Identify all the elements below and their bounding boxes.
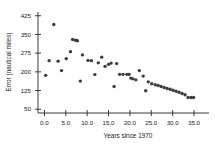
chart-container: 42535027520012550 0.05.010.015.020.025.0… <box>0 0 215 146</box>
data-point <box>186 96 189 99</box>
x-tick-label: 35.0 <box>188 119 201 126</box>
data-point <box>76 39 79 42</box>
data-point <box>121 73 124 76</box>
scatter-plot: 42535027520012550 0.05.010.015.020.025.0… <box>0 0 215 146</box>
data-point-group <box>44 23 195 99</box>
data-point <box>156 84 159 87</box>
data-point <box>115 62 118 65</box>
y-axis-title: Error (nautical miles) <box>5 33 13 92</box>
data-point <box>177 91 180 94</box>
data-point <box>147 80 150 83</box>
data-point <box>141 74 144 77</box>
data-point <box>65 57 68 60</box>
y-tick-label: 125 <box>21 87 32 94</box>
data-point <box>168 88 171 91</box>
data-point <box>60 69 63 72</box>
data-point <box>100 55 103 58</box>
data-point <box>171 89 174 92</box>
x-tick-label: 20.0 <box>124 119 137 126</box>
y-tick-label: 200 <box>21 68 32 75</box>
y-tick-label: 350 <box>21 31 32 38</box>
data-point <box>71 38 74 41</box>
y-tick-label: 50 <box>24 105 31 112</box>
data-point <box>162 86 165 89</box>
x-axis-title: Years since 1970 <box>104 132 153 139</box>
data-point <box>93 73 96 76</box>
data-point <box>81 53 84 56</box>
data-point <box>150 82 153 85</box>
data-point <box>97 61 100 64</box>
data-point <box>44 74 47 77</box>
data-point <box>103 65 106 68</box>
data-point <box>56 59 59 62</box>
x-tick-label: 0.0 <box>40 119 49 126</box>
data-point <box>134 78 137 81</box>
data-point <box>112 85 115 88</box>
x-tick-label: 10.0 <box>81 119 94 126</box>
data-point <box>183 93 186 96</box>
data-point <box>180 92 183 95</box>
data-point <box>118 73 121 76</box>
data-point <box>86 59 89 62</box>
data-point <box>47 59 50 62</box>
x-tick-label: 30.0 <box>167 119 180 126</box>
data-point <box>192 96 195 99</box>
x-tick-label: 15.0 <box>103 119 116 126</box>
data-point <box>52 23 55 26</box>
data-point <box>90 59 93 62</box>
x-axis: 0.05.010.015.020.025.030.035.0 <box>38 110 209 126</box>
data-point <box>138 69 141 72</box>
data-point <box>174 90 177 93</box>
y-tick-label: 425 <box>21 12 32 19</box>
data-point <box>109 61 112 64</box>
data-point <box>159 85 162 88</box>
x-tick-group: 0.05.010.015.020.025.030.035.0 <box>40 110 201 126</box>
data-point <box>131 77 134 80</box>
data-point <box>127 73 130 76</box>
data-point <box>79 79 82 82</box>
data-point <box>165 87 168 90</box>
x-tick-label: 25.0 <box>145 119 158 126</box>
y-tick-label: 275 <box>21 49 32 56</box>
x-tick-label: 5.0 <box>61 119 70 126</box>
data-point <box>153 83 156 86</box>
y-axis: 42535027520012550 <box>21 12 41 113</box>
data-point <box>144 89 147 92</box>
data-point <box>69 50 72 53</box>
